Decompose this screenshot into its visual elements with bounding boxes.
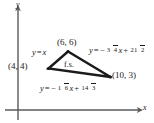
eq-bottom-plus: + (73, 84, 80, 93)
eq-bottom-slope-fraction: 1 6 (57, 85, 69, 92)
eq-bottom-sign: − (51, 84, 57, 93)
x-axis-label: x (143, 104, 147, 112)
equation-right-boundary: y = − 3 4 x + 21 2 (89, 46, 146, 55)
eq-bottom-slope-numerator: 1 (57, 84, 62, 91)
vertex-dot-top (66, 50, 69, 53)
eq-right-constant-numerator: 21 (130, 46, 139, 53)
eq-right-plus: + (122, 46, 129, 55)
x-axis (5, 107, 143, 113)
y-axis-label: y (16, 1, 20, 9)
eq-bottom-relation: = (44, 84, 51, 93)
feasible-set-label: f.s. (64, 61, 74, 69)
eq-left-relation: = (36, 48, 43, 57)
equation-left-boundary: y = x (32, 48, 46, 57)
eq-right-sign: − (100, 46, 106, 55)
vertex-label-right: (10, 3) (112, 71, 136, 80)
eq-right-slope-fraction: 3 4 (106, 47, 118, 54)
eq-right-slope-numerator: 3 (106, 46, 111, 53)
eq-right-constant-denominator: 2 (140, 45, 145, 53)
vertex-label-top: (6, 6) (57, 38, 77, 47)
eq-bottom-slope-denominator: 6 (64, 83, 69, 91)
eq-right-relation: = (93, 46, 100, 55)
eq-right-constant-fraction: 21 2 (130, 47, 146, 54)
vertex-dot-left (47, 67, 50, 70)
eq-bottom-constant-denominator: 3 (91, 83, 96, 91)
feasible-set-triangle (49, 52, 111, 78)
eq-bottom-constant-numerator: 14 (81, 84, 90, 91)
coordinate-plane-figure: y x (6, 6) (4, 4) (10, 3) f.s. y = x y =… (0, 0, 154, 123)
vertex-label-left: (4, 4) (8, 62, 28, 71)
equation-bottom-boundary: y = − 1 6 x + 14 3 (40, 84, 97, 93)
eq-right-slope-denominator: 4 (113, 45, 118, 53)
eq-left-var: x (43, 48, 47, 57)
eq-bottom-constant-fraction: 14 3 (81, 85, 97, 92)
